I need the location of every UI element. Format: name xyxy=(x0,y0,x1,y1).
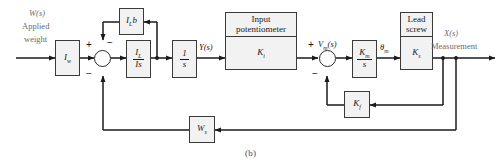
sum-left-sign-west: + xyxy=(86,40,92,50)
inertia-transfer-fraction: IL Is xyxy=(133,48,144,70)
input-potentiometer-gain-label: Ki xyxy=(257,48,265,59)
tachometer-feedback-label: Kf xyxy=(353,99,361,110)
input-potentiometer-title: Input potentiometer xyxy=(226,13,296,37)
integrator-denominator: s xyxy=(181,60,189,69)
lead-screw-body: Ks xyxy=(401,37,432,69)
output-sensor-feedback-label: Ws xyxy=(197,124,207,135)
motor-block: Km s xyxy=(352,40,377,78)
inertia-transfer-block: IL Is xyxy=(126,40,151,78)
input-weight-label: weight xyxy=(24,35,47,45)
sum-right-sign-west: + xyxy=(308,40,314,50)
lead-screw-gain-label: Ks xyxy=(412,48,420,59)
integrator-output-label: Y(s) xyxy=(199,43,213,53)
sum-right-sign-south: − xyxy=(312,69,318,79)
input-transform-label: W(s) xyxy=(29,9,45,19)
motor-fraction: Km s xyxy=(357,48,371,70)
output-sensor-feedback-block: Ws xyxy=(189,116,215,143)
motor-voltage-label: Vm(s) xyxy=(318,40,337,52)
figure-caption: (b) xyxy=(245,148,256,158)
damping-feedback-label: ILb xyxy=(126,16,137,27)
integrator-block: 1 s xyxy=(172,40,197,78)
damping-feedback-block: ILb xyxy=(119,8,144,35)
lead-screw-block: Lead screw Ks xyxy=(400,12,433,70)
tachometer-feedback-block: Kf xyxy=(344,91,370,118)
integrator-fraction: 1 s xyxy=(180,49,189,69)
lead-screw-title-line2: screw xyxy=(402,25,431,35)
block-diagram-figure: Iw ILb IL Is 1 s Input potentiometer Ki … xyxy=(0,0,503,164)
output-measurement-label: Measurement xyxy=(431,42,477,52)
sum-left-sign-north: − xyxy=(107,38,113,48)
motor-denominator: s xyxy=(361,60,369,69)
weight-gain-block: Iw xyxy=(55,40,80,76)
input-potentiometer-block: Input potentiometer Ki xyxy=(225,12,297,70)
summing-junction-right xyxy=(319,50,336,67)
input-applied-label: Applied xyxy=(22,22,49,32)
inertia-denominator: Is xyxy=(133,60,144,69)
summing-junction-left xyxy=(94,50,111,67)
weight-gain-label: Iw xyxy=(64,53,71,64)
input-potentiometer-title-line2: potentiometer xyxy=(227,25,295,35)
output-transform-label: X(s) xyxy=(444,29,458,39)
integrator-numerator: 1 xyxy=(180,49,189,59)
lead-screw-title: Lead screw xyxy=(401,13,432,37)
motor-angle-label: θm xyxy=(380,43,389,55)
sum-left-sign-south: − xyxy=(86,69,92,79)
input-potentiometer-body: Ki xyxy=(226,37,296,69)
